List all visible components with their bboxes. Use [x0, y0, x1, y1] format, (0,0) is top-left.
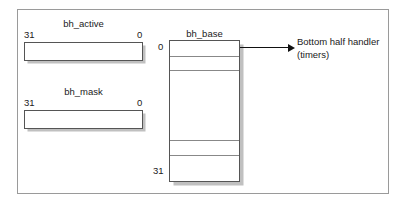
bh-mask-left-bit-label: 31 — [24, 98, 35, 109]
table-row — [170, 57, 239, 71]
bh-active-register-bar — [24, 42, 143, 61]
handler-annotation-line2: (timers) — [297, 49, 379, 62]
handler-annotation-line1: Bottom half handler — [297, 36, 379, 49]
handler-annotation: Bottom half handler (timers) — [297, 36, 379, 61]
table-row — [170, 41, 239, 57]
handler-arrow-line — [240, 47, 290, 48]
bh-mask-right-bit-label: 0 — [137, 98, 142, 109]
bottom-half-diagram: bh_active 31 0 bh_mask 31 0 bh_base 0 31… — [0, 0, 408, 206]
bh-base-top-index-label: 0 — [158, 42, 163, 53]
bh-base-bottom-index-label: 31 — [153, 166, 164, 177]
table-row — [170, 156, 239, 181]
bh-mask-register-bar — [24, 110, 143, 129]
bh-active-right-bit-label: 0 — [137, 30, 142, 41]
bh-active-left-bit-label: 31 — [24, 30, 35, 41]
bh-active-title: bh_active — [24, 19, 143, 30]
table-row — [170, 141, 239, 156]
bh-base-table — [169, 40, 240, 182]
bh-mask-title: bh_mask — [24, 87, 143, 98]
handler-arrow-head-icon — [288, 44, 295, 52]
table-row — [170, 71, 239, 141]
bh-base-title: bh_base — [169, 29, 240, 40]
